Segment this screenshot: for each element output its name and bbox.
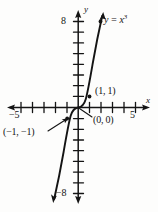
curve-point-markers	[65, 20, 102, 121]
point-label-1-1: (1, 1)	[95, 86, 115, 96]
y-tick-label-8: 8	[61, 16, 66, 26]
equation-exponent: 3	[124, 13, 127, 21]
x-axis-label: x	[146, 96, 150, 105]
point-label-0-0: (0, 0)	[93, 115, 113, 125]
equation-label: y = x3	[104, 14, 127, 25]
y-axis-label: y	[84, 5, 88, 14]
y-tick-label-neg8: −8	[56, 188, 66, 198]
leader-line-neg1	[48, 118, 69, 131]
cubic-function-graph: y = x3 y x 8 −8 −5 5 (1, 1) (0, 0) (−1, …	[0, 0, 158, 212]
graph-canvas	[0, 0, 158, 212]
point-label-neg1-neg1: (−1, −1)	[3, 127, 34, 137]
x-tick-label-neg5: −5	[9, 110, 19, 120]
x-tick-label-5: 5	[130, 110, 135, 120]
equation-text: y = x	[104, 14, 124, 25]
